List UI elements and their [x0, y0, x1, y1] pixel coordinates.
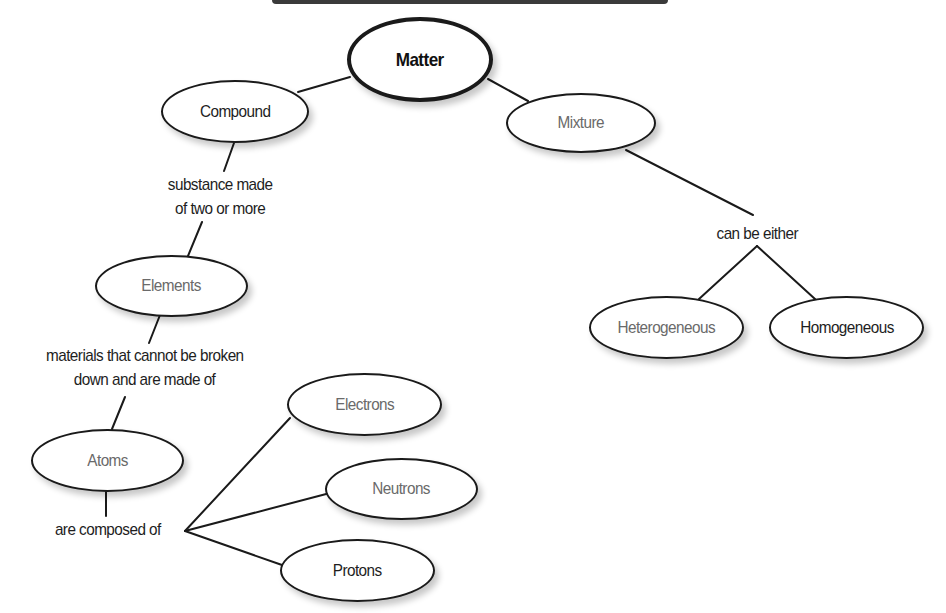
edge-label-atoms [112, 397, 125, 429]
node-elements-label: Elements [142, 276, 201, 296]
edge-compound-label [224, 143, 234, 171]
link-label-line2: down and are made of [74, 368, 215, 392]
node-neutrons[interactable]: Neutrons [325, 458, 478, 520]
link-label-text: can be either [717, 222, 798, 246]
link-label-line1: materials that cannot be broken [46, 344, 244, 368]
node-matter-label: Matter [396, 49, 444, 71]
node-heterogeneous[interactable]: Heterogeneous [589, 296, 744, 359]
link-label-line1: substance made [168, 173, 273, 197]
node-elements[interactable]: Elements [95, 255, 248, 317]
edge-fan-protons [185, 531, 282, 565]
node-mixture-label: Mixture [558, 113, 604, 133]
edge-fan-neutrons [185, 493, 330, 531]
node-mixture[interactable]: Mixture [506, 93, 656, 153]
node-atoms[interactable]: Atoms [31, 429, 184, 492]
edge-label-heterogeneous [699, 246, 757, 299]
link-label-compound-elements: substance made of two or more [120, 173, 320, 221]
node-matter[interactable]: Matter [347, 17, 493, 102]
link-label-text: are composed of [55, 518, 161, 542]
node-compound-label: Compound [200, 102, 271, 122]
edge-label-homogeneous [757, 246, 815, 299]
node-electrons[interactable]: Electrons [287, 373, 442, 436]
link-label-atoms-particles: are composed of [30, 518, 185, 542]
node-heterogeneous-label: Heterogeneous [618, 318, 716, 338]
link-label-mixture-types: can be either [690, 222, 825, 246]
node-atoms-label: Atoms [87, 451, 128, 471]
link-label-elements-atoms: materials that cannot be broken down and… [0, 344, 290, 392]
edge-matter-mixture [488, 79, 528, 101]
node-homogeneous-label: Homogeneous [800, 318, 894, 338]
edge-mixture-label [626, 150, 753, 215]
link-label-line2: of two or more [175, 197, 265, 221]
edge-elements-label [149, 315, 160, 343]
edge-label-elements [188, 222, 202, 256]
node-protons-label: Protons [333, 561, 382, 581]
concept-map: Matter Compound Mixture substance made o… [0, 0, 946, 613]
edge-matter-compound [298, 77, 350, 92]
node-compound[interactable]: Compound [161, 80, 309, 143]
edge-fan-electrons [185, 418, 290, 531]
node-protons[interactable]: Protons [280, 539, 435, 602]
node-electrons-label: Electrons [335, 395, 394, 415]
node-neutrons-label: Neutrons [373, 479, 431, 499]
node-homogeneous[interactable]: Homogeneous [769, 296, 924, 359]
